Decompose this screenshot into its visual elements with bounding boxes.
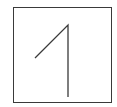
digit-one-icon: [0, 0, 117, 107]
